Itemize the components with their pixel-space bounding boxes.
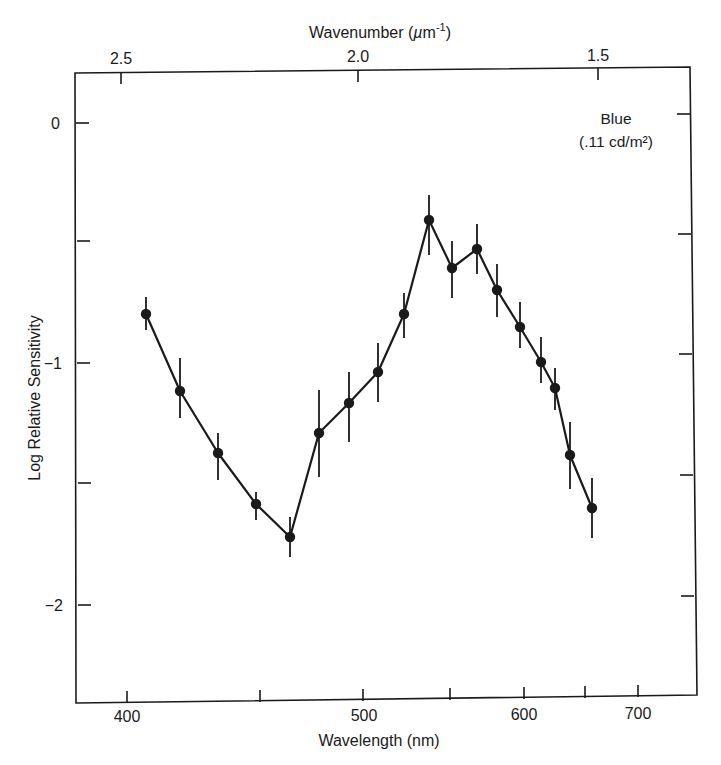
y-axis-title: Log Relative Sensitivity bbox=[26, 315, 43, 480]
plot-border bbox=[75, 67, 697, 703]
y-tick-label-minus-2: −2 bbox=[45, 597, 63, 614]
top-tick-label-2-5: 2.5 bbox=[110, 50, 132, 67]
data-point bbox=[373, 367, 383, 377]
data-point bbox=[472, 244, 482, 254]
top-axis-title-close: ) bbox=[446, 24, 451, 41]
data-point bbox=[565, 450, 575, 460]
data-point bbox=[424, 215, 434, 225]
data-point bbox=[447, 263, 457, 273]
x-tick-label-400: 400 bbox=[114, 708, 141, 725]
mu-symbol: µ bbox=[412, 24, 422, 41]
x-tick-label-700: 700 bbox=[625, 705, 652, 722]
annotation-series-name: Blue bbox=[600, 110, 631, 127]
data-point bbox=[141, 309, 151, 319]
data-point bbox=[251, 499, 261, 509]
data-point bbox=[399, 309, 409, 319]
data-point bbox=[344, 398, 354, 408]
data-point bbox=[550, 383, 560, 393]
top-tick-label-2-0: 2.0 bbox=[347, 48, 369, 65]
top-tick-label-1-5: 1.5 bbox=[587, 47, 609, 64]
x-axis-title: Wavelength (nm) bbox=[318, 732, 439, 749]
data-series bbox=[141, 195, 597, 557]
data-point bbox=[536, 357, 546, 367]
x-tick-label-600: 600 bbox=[511, 706, 538, 723]
series-line bbox=[146, 220, 592, 537]
plot-frame bbox=[75, 67, 697, 703]
top-axis-title-exp: -1 bbox=[436, 21, 446, 33]
data-point bbox=[213, 448, 223, 458]
data-point bbox=[314, 428, 324, 438]
y-tick-label-minus-1: −1 bbox=[44, 355, 62, 372]
top-axis-title: Wavenumber (µm-1) bbox=[309, 21, 451, 41]
x-tick-label-500: 500 bbox=[351, 707, 378, 724]
data-point bbox=[515, 322, 525, 332]
axis-ticks bbox=[76, 68, 694, 703]
top-axis-title-main: Wavenumber ( bbox=[309, 24, 414, 41]
data-point bbox=[587, 503, 597, 513]
y-tick-label-0: 0 bbox=[51, 115, 60, 132]
data-point bbox=[285, 532, 295, 542]
top-axis-title-unit: m bbox=[423, 24, 436, 41]
data-point bbox=[492, 285, 502, 295]
data-point bbox=[175, 386, 185, 396]
annotation-luminance: (.11 cd/m²) bbox=[579, 133, 653, 150]
spectral-sensitivity-chart: Wavenumber (µm-1) 2.5 2.0 1.5 0 −1 −2 Lo… bbox=[0, 0, 721, 765]
